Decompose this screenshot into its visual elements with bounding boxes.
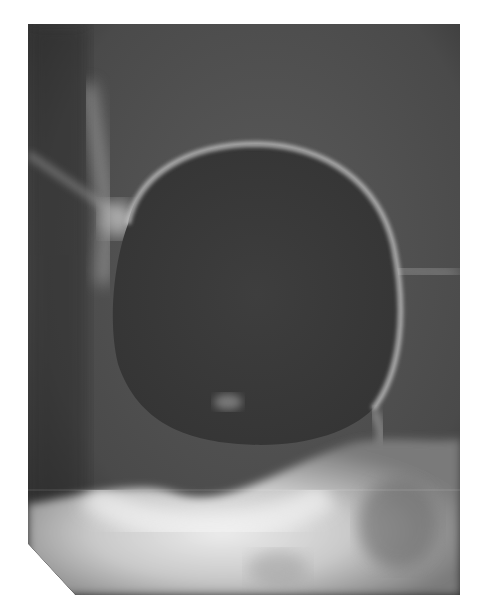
radiograph-drawing [28, 24, 460, 595]
radiograph-image [28, 24, 460, 595]
